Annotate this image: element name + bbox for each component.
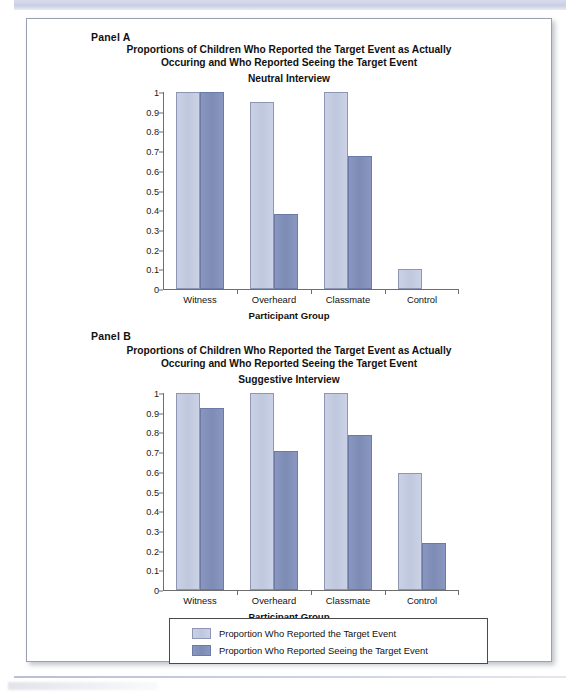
panel-a-x-category-label: Classmate [326,294,370,305]
panel-b-y-tick-label: 0.5 [146,488,159,498]
panel-b-x-end-tick [458,591,459,595]
panel-b-y-tick-label: 0.2 [146,547,159,557]
panel-a-x-divider [385,290,386,294]
panel-b-y-tick-mark [159,433,163,434]
panel-b-x-category-label: Witness [183,595,216,606]
panel-b-y-tick-label: 0.1 [146,566,159,576]
panel-a-y-tick-label: 0.2 [146,246,159,256]
legend-swatch-dark-icon [192,645,211,656]
panel-a-y-tick-mark [159,230,163,231]
panel-a-title: Proportions of Children Who Reported the… [27,44,551,69]
panel-a-x-divider [237,290,238,294]
bar-witness-reported [176,393,200,590]
panel-a-y-tick-mark [159,211,163,212]
panel-a-y-tick-mark [159,93,163,94]
panel-a-x-end-tick [458,290,459,294]
bar-classmate-reported [324,92,348,289]
legend-swatch-light-icon [192,628,211,639]
bar-control-seeing [422,543,446,590]
legend-item-reported: Proportion Who Reported the Target Event [192,628,396,639]
panel-b-x-divider [385,591,386,595]
bar-classmate-seeing [348,156,372,289]
panel-a-y-axis [163,92,164,290]
bar-overheard-reported [250,102,274,289]
panel-b-y-tick-mark [159,492,163,493]
panel-a-y-tick-mark [159,152,163,153]
panel-a-x-category-label: Overheard [252,294,296,305]
panel-b-y-tick-label: 0.7 [146,448,159,458]
panel-a-x-axis-title: Participant Group [27,310,551,321]
panel-a-x-divider [311,290,312,294]
panel-a-y-tick-label: 0.1 [146,265,159,275]
panel-a-y-tick-mark [159,132,163,133]
panel-b-y-tick-mark [159,512,163,513]
bar-overheard-seeing [274,451,298,590]
panel-b-y-tick-label: 0.9 [146,409,159,419]
bar-overheard-seeing [274,214,298,289]
panel-b-y-tick-mark [159,472,163,473]
panel-b-title-line1: Proportions of Children Who Reported the… [45,345,533,358]
panel-b-y-tick-mark [159,413,163,414]
panel-b-y-tick-mark [159,394,163,395]
bar-witness-reported [176,92,200,289]
panel-a-y-tick-mark [159,290,163,291]
bar-witness-seeing [200,92,224,289]
bar-overheard-reported [250,393,274,590]
panel-a-y-tick-label: 0.3 [146,226,159,236]
panel-a-tag: Panel A [91,31,131,43]
page-bottom-rule [14,676,566,678]
legend-label-seeing: Proportion Who Reported Seeing the Targe… [219,645,428,656]
panel-a-y-tick-label: 0.6 [146,167,159,177]
panel-b-y-tick-label: 0.4 [146,507,159,517]
panel-a-y-tick-label: 0.7 [146,147,159,157]
panel-b-y-tick-mark [159,531,163,532]
panel-b-tag: Panel B [91,330,131,342]
bar-witness-seeing [200,408,224,590]
legend: Proportion Who Reported the Target Event… [169,618,488,664]
panel-b-x-category-label: Control [407,595,437,606]
panel-a-x-category-label: Witness [183,294,216,305]
panel-b-y-tick-mark [159,453,163,454]
panel-a-y-tick-mark [159,250,163,251]
panel-b-y-tick-label: 0.3 [146,527,159,537]
panel-a-plot: 00.10.20.30.40.50.60.70.80.91WitnessOver… [163,92,459,290]
panel-b-x-category-label: Classmate [326,595,370,606]
panel-a-y-tick-mark [159,270,163,271]
figure-page: Panel A Proportions of Children Who Repo… [26,18,552,662]
bar-classmate-reported [324,393,348,590]
panel-a-title-line1: Proportions of Children Who Reported the… [45,44,533,57]
panel-a-title-line2: Occuring and Who Reported Seeing the Tar… [45,57,533,70]
panel-b-title-line2: Occuring and Who Reported Seeing the Tar… [45,358,533,371]
panel-a-y-tick-label: 0.5 [146,187,159,197]
panel-a-y-tick-mark [159,191,163,192]
panel-b-subtitle: Suggestive Interview [27,374,551,385]
bar-classmate-seeing [348,435,372,590]
panel-a-y-tick-mark [159,171,163,172]
legend-label-reported: Proportion Who Reported the Target Event [219,628,396,639]
panel-a-y-tick-label: 0.9 [146,108,159,118]
panel-b-y-tick-label: 0.6 [146,468,159,478]
panel-a-x-category-label: Control [407,294,437,305]
page-footer-artifact [8,682,158,690]
panel-a-y-tick-mark [159,112,163,113]
panel-a-subtitle: Neutral Interview [27,73,551,84]
panel-b-x-divider [311,591,312,595]
legend-item-seeing: Proportion Who Reported Seeing the Targe… [192,645,428,656]
panel-b-x-divider [237,591,238,595]
panel-b-y-tick-label: 0.8 [146,428,159,438]
panel-b-plot: 00.10.20.30.40.50.60.70.80.91WitnessOver… [163,393,459,591]
panel-b-x-category-label: Overheard [252,595,296,606]
panel-b-y-tick-mark [159,551,163,552]
bar-control-reported [398,269,422,289]
panel-a-y-tick-label: 0.8 [146,127,159,137]
bar-control-reported [398,473,422,590]
panel-b-y-tick-mark [159,571,163,572]
panel-b-y-tick-mark [159,591,163,592]
panel-b-y-axis [163,393,164,591]
page-top-band [14,0,566,10]
panel-a-y-tick-label: 0.4 [146,206,159,216]
panel-b-title: Proportions of Children Who Reported the… [27,345,551,370]
